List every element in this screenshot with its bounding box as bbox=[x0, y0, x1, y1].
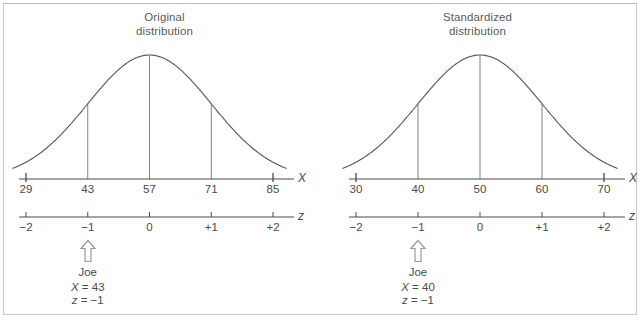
z-axis-tick-label: 0 bbox=[130, 221, 170, 233]
x-axis-original bbox=[19, 173, 294, 182]
z-axis-original bbox=[19, 212, 294, 217]
callout-x-value: X = 43 bbox=[28, 281, 148, 295]
callout-z-symbol: z bbox=[402, 294, 408, 306]
callout-z-value: z = −1 bbox=[358, 294, 478, 308]
z-axis-tick-label: −1 bbox=[398, 221, 438, 233]
x-axis-tick-label: 40 bbox=[398, 183, 438, 195]
z-axis-tick-label: +2 bbox=[584, 221, 624, 233]
z-axis-tick-label: 0 bbox=[460, 221, 500, 233]
z-axis-standardized bbox=[349, 212, 625, 217]
z-axis-tick-label: +1 bbox=[522, 221, 562, 233]
callout-x-value: X = 40 bbox=[358, 281, 478, 295]
x-axis-tick-label: 60 bbox=[522, 183, 562, 195]
x-axis-tick-label: 70 bbox=[584, 183, 624, 195]
z-axis-tick-label: −2 bbox=[336, 221, 376, 233]
callout-x-equals: = 43 bbox=[82, 281, 105, 293]
callout-z-value: z = −1 bbox=[28, 294, 148, 308]
z-axis-name-standardized: z bbox=[629, 209, 635, 223]
x-axis-name-standardized: X bbox=[629, 171, 637, 185]
x-axis-name-original: X bbox=[298, 171, 306, 185]
sd-marker-lines-original bbox=[88, 55, 212, 179]
x-axis-tick-label: 71 bbox=[191, 183, 231, 195]
up-arrow-outline-icon-standardized bbox=[408, 239, 428, 267]
x-axis-tick-label: 43 bbox=[68, 183, 108, 195]
callout-x-equals: = 40 bbox=[412, 281, 435, 293]
callout-z-symbol: z bbox=[72, 294, 78, 306]
callout-z-equals: = −1 bbox=[411, 294, 434, 306]
x-axis-tick-label: 29 bbox=[6, 183, 46, 195]
z-axis-tick-label: +2 bbox=[253, 221, 293, 233]
x-axis-tick-label: 50 bbox=[460, 183, 500, 195]
x-axis-standardized bbox=[349, 173, 625, 182]
figure-frame: Original distribution 2943577185 −2−10+1… bbox=[3, 3, 637, 315]
z-axis-tick-label: −2 bbox=[6, 221, 46, 233]
up-arrow-outline-icon-original bbox=[78, 239, 98, 267]
x-axis-tick-label: 85 bbox=[253, 183, 293, 195]
sd-marker-lines-standardized bbox=[418, 55, 542, 179]
x-axis-tick-label: 57 bbox=[130, 183, 170, 195]
x-axis-tick-label: 30 bbox=[336, 183, 376, 195]
callout-x-symbol: X bbox=[401, 281, 409, 293]
callout-x-symbol: X bbox=[71, 281, 79, 293]
callout-z-equals: = −1 bbox=[81, 294, 104, 306]
callout-standardized: Joe X = 40 z = −1 bbox=[358, 266, 478, 308]
z-axis-tick-label: −1 bbox=[68, 221, 108, 233]
z-axis-tick-label: +1 bbox=[191, 221, 231, 233]
panel-original-distribution: Original distribution 2943577185 −2−10+1… bbox=[4, 4, 325, 316]
panel-standardized-distribution: Standardized distribution 3040506070 −2−… bbox=[317, 4, 638, 316]
z-axis-name-original: z bbox=[298, 209, 304, 223]
callout-person-name: Joe bbox=[28, 266, 148, 280]
callout-original: Joe X = 43 z = −1 bbox=[28, 266, 148, 308]
callout-person-name: Joe bbox=[358, 266, 478, 280]
